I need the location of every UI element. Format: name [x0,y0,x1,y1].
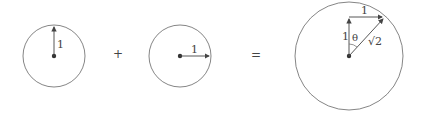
circle-a-radius-label: 1 [57,38,64,51]
hypotenuse-label: √2 [368,35,382,48]
equals-operator: = [251,48,261,62]
plus-operator: + [113,47,123,61]
vector-addition-diagram: 1 + 1 = 1 1 θ √2 [0,0,425,114]
circle-b: 1 [149,25,211,87]
horizontal-label: 1 [361,4,368,17]
vertical-label: 1 [342,30,349,43]
circle-result: 1 1 θ √2 [295,2,403,110]
circle-a: 1 [23,25,85,87]
circle-b-radius-label: 1 [191,43,198,56]
angle-label: θ [352,32,358,43]
